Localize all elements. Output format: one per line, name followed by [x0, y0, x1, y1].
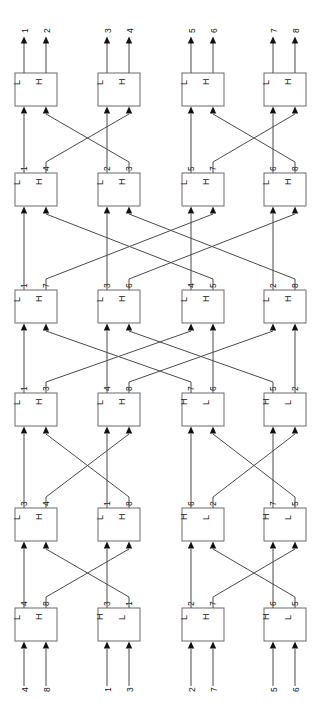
link-arrowhead-s5-1 [21, 542, 27, 549]
link-wire-s1-6 [213, 114, 295, 173]
link-wire-s1-8 [213, 114, 295, 173]
box-r4-c2[interactable] [98, 393, 140, 426]
box-r3-c4[interactable] [264, 290, 306, 323]
input-arrowhead-8 [292, 642, 298, 649]
box-r6-c3[interactable] [182, 608, 224, 641]
box-r2-c2-port-left: L [95, 180, 105, 185]
box-r5-c3-port-left: H [179, 514, 189, 521]
link-arrowhead-s1-2 [43, 107, 49, 114]
link-arrowhead-s2-8 [292, 207, 298, 214]
box-r4-c3-port-right: L [201, 400, 211, 405]
output-label-6: 6 [209, 28, 219, 33]
box-r5-c2-port-right: H [117, 514, 127, 521]
box-r3-c4-port-left: L [261, 297, 271, 302]
box-r3-c2-port-right: H [117, 296, 127, 303]
link-arrowhead-s2-3 [104, 207, 110, 214]
box-r4-c2-port-right: H [117, 399, 127, 406]
link-arrowhead-s5-6 [210, 542, 216, 549]
output-label-8: 8 [291, 28, 301, 33]
link-arrowhead-s1-4 [126, 107, 132, 114]
link-arrowhead-s3-4 [126, 324, 132, 331]
box-r4-c1-port-right: H [34, 399, 44, 406]
box-r3-c1-port-left: L [12, 297, 22, 302]
box-r4-c4[interactable] [264, 393, 306, 426]
link-arrowhead-s4-4 [126, 427, 132, 434]
link-wire-s4-2 [46, 434, 129, 508]
link-arrowhead-s3-3 [104, 324, 110, 331]
output-arrowhead-8 [292, 37, 298, 44]
output-arrowhead-1 [21, 37, 27, 44]
link-wire-s3-5 [46, 331, 191, 393]
link-wire-s3-7 [129, 331, 273, 393]
box-r2-c3-port-right: H [201, 179, 211, 186]
box-r1-c4-port-right: H [283, 79, 293, 86]
box-r3-c2-port-left: L [95, 297, 105, 302]
box-r1-c2[interactable] [98, 73, 140, 106]
output-arrowhead-7 [270, 37, 276, 44]
link-arrowhead-s1-6 [210, 107, 216, 114]
box-r5-c2[interactable] [98, 508, 140, 541]
box-r2-c1[interactable] [15, 173, 57, 206]
box-r4-c1[interactable] [15, 393, 57, 426]
link-arrowhead-s4-2 [43, 427, 49, 434]
link-arrowhead-s3-6 [210, 324, 216, 331]
box-r1-c3-port-left: L [179, 80, 189, 85]
box-r3-c3[interactable] [182, 290, 224, 323]
link-arrowhead-s1-5 [188, 107, 194, 114]
box-r5-c4[interactable] [264, 508, 306, 541]
box-r6-c1[interactable] [15, 608, 57, 641]
output-label-2: 2 [42, 28, 52, 33]
link-arrowhead-s3-1 [21, 324, 27, 331]
box-r1-c3[interactable] [182, 73, 224, 106]
box-r1-c1[interactable] [15, 73, 57, 106]
link-wire-s1-4 [46, 114, 129, 173]
link-wire-s5-2 [46, 549, 129, 608]
link-arrowhead-s2-2 [43, 207, 49, 214]
link-arrowhead-s1-7 [270, 107, 276, 114]
link-arrowhead-s1-3 [104, 107, 110, 114]
box-r6-c4-port-left: H [261, 614, 271, 621]
box-r6-c1-port-left: L [12, 615, 22, 620]
network-canvas: LHLHLHLHLH14LH23LH57LH68LH17LH36LH45LH28… [0, 0, 330, 714]
link-arrowhead-s3-2 [43, 324, 49, 331]
box-r5-c3-port-right: L [201, 515, 211, 520]
link-arrowhead-s5-5 [188, 542, 194, 549]
box-r6-c1-port-right: H [34, 614, 44, 621]
box-r1-c3-port-right: H [201, 79, 211, 86]
box-r6-c2-port-right: L [117, 615, 127, 620]
box-r5-c1[interactable] [15, 508, 57, 541]
link-wire-s5-8 [213, 549, 295, 608]
box-r1-c4[interactable] [264, 73, 306, 106]
box-r6-c4[interactable] [264, 608, 306, 641]
output-arrowhead-4 [126, 37, 132, 44]
output-label-4: 4 [125, 28, 135, 33]
box-r5-c3[interactable] [182, 508, 224, 541]
box-r4-c4-port-right: L [283, 400, 293, 405]
box-r4-c3[interactable] [182, 393, 224, 426]
box-r2-c4-port-right: H [283, 179, 293, 186]
output-arrowhead-3 [104, 37, 110, 44]
link-arrowhead-s3-8 [292, 324, 298, 331]
link-wire-s4-8 [213, 434, 295, 508]
output-label-5: 5 [187, 28, 197, 33]
link-arrowhead-s5-8 [292, 542, 298, 549]
input-label-3: 1 [103, 687, 113, 692]
link-wire-s5-4 [46, 549, 129, 608]
box-r2-c1-port-right: H [34, 179, 44, 186]
box-r2-c3[interactable] [182, 173, 224, 206]
box-r2-c4[interactable] [264, 173, 306, 206]
box-r5-c4-port-left: H [261, 514, 271, 521]
input-arrowhead-1 [21, 642, 27, 649]
box-r3-c1-port-right: H [34, 296, 44, 303]
link-arrowhead-s2-1 [21, 207, 27, 214]
link-arrowhead-s2-7 [270, 207, 276, 214]
output-arrowhead-6 [210, 37, 216, 44]
input-label-2: 8 [42, 687, 52, 692]
box-r3-c2[interactable] [98, 290, 140, 323]
link-arrowhead-s4-8 [292, 427, 298, 434]
box-r6-c2[interactable] [98, 608, 140, 641]
box-r2-c2[interactable] [98, 173, 140, 206]
link-wire-s4-6 [213, 434, 295, 508]
box-r3-c1[interactable] [15, 290, 57, 323]
input-label-6: 7 [209, 687, 219, 692]
